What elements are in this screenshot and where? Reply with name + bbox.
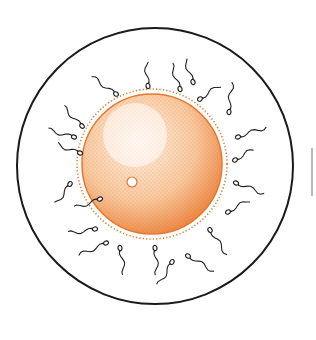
egg-highlight	[103, 103, 167, 167]
sperm-head	[92, 227, 98, 232]
sperm-head	[153, 245, 157, 251]
sperm-head	[146, 83, 150, 89]
sperm-head	[118, 245, 123, 251]
egg-nucleus	[127, 177, 137, 187]
egg-cell-illustration	[0, 0, 316, 340]
sperm-head	[227, 109, 231, 115]
